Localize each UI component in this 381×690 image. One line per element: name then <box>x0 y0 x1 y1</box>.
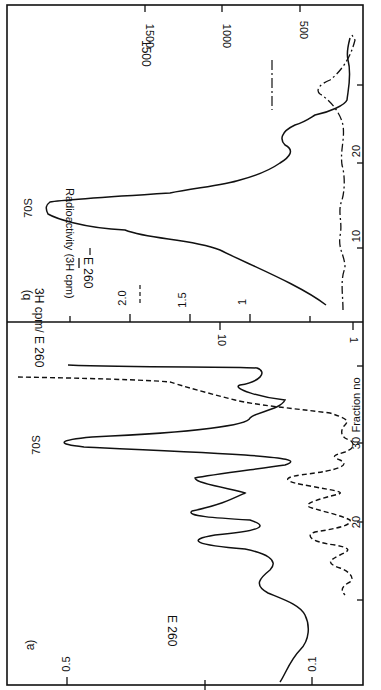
e260-legend-b: E 260 <box>81 257 95 289</box>
e260-tick-0-1: 0.1 <box>306 656 318 671</box>
cpm-tick-1500-label: 1500 <box>144 24 156 48</box>
cpm-tick-1000-label: 1000 <box>221 24 233 48</box>
fraction-tick-10-b: 10 <box>350 230 362 242</box>
figure-canvas: 1500 1500 1000 500 2.0 1.5 1 b) E 260 70… <box>0 0 381 690</box>
fraction-tick-20-b: 20 <box>350 145 362 157</box>
cpm-ratio-legend: 3H cpm/ E 260 <box>32 288 46 368</box>
e260-curve-a <box>64 365 308 682</box>
ratio-tick-10: 10 <box>216 334 228 346</box>
radioactivity-label: Radioactivity (3H cpm) <box>64 188 76 299</box>
outer-frame <box>7 5 363 685</box>
ratio-curve-a <box>18 377 353 595</box>
e260-tick-1: 1 <box>236 299 248 305</box>
e260-tick-1-5: 1.5 <box>176 292 188 307</box>
fraction-no-label: Fraction no <box>350 377 362 432</box>
e260-tick-0-5: 0.5 <box>60 656 72 671</box>
ratio-tick-1: 1 <box>348 337 360 343</box>
panel-a-label: a) <box>23 640 37 651</box>
e260-legend-a: E 260 <box>165 615 179 647</box>
fraction-tick-20-a: 20 <box>350 516 362 528</box>
seventy-s-label-a: 70S <box>30 435 42 455</box>
panel-a: 10 1 0.5 0.1 20 30 Fraction no a) E 260 … <box>18 285 363 690</box>
cpm-tick-500-label: 500 <box>298 21 310 39</box>
e260-tick-2-0: 2.0 <box>116 290 128 305</box>
panel-b: 1500 1500 1000 500 2.0 1.5 1 b) E 260 70… <box>19 5 363 322</box>
panel-b-label: b) <box>19 290 33 301</box>
seventy-s-label-b: 70S <box>22 198 34 218</box>
